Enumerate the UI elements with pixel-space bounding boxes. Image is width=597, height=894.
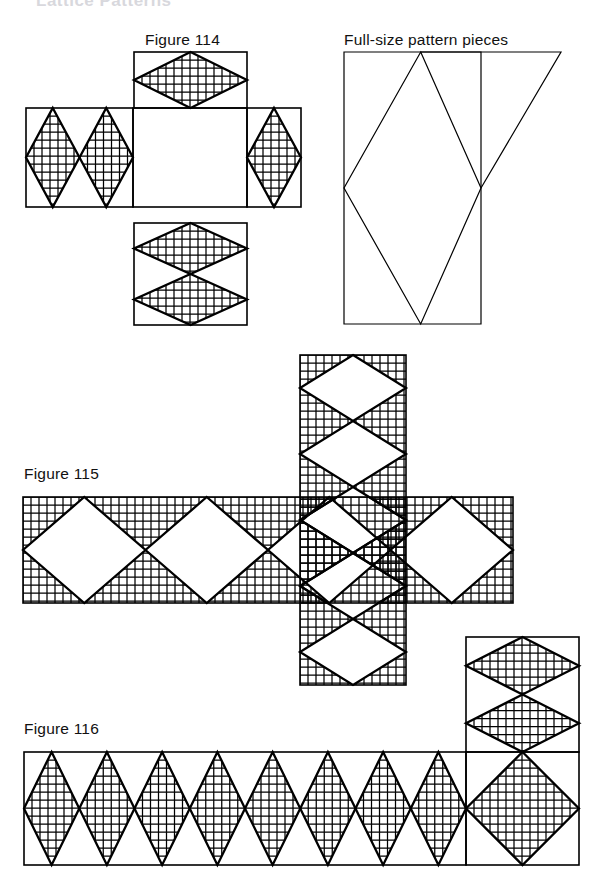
figure-116-drawing <box>22 635 586 872</box>
illustration-page: Lattice Patterns Figure 114 Full-size pa… <box>0 0 597 894</box>
lattice-pattern-artwork <box>0 0 597 894</box>
full-size-pattern-drawing <box>344 52 561 324</box>
figure-114-drawing <box>24 50 303 330</box>
figure-115-drawing <box>21 353 519 691</box>
